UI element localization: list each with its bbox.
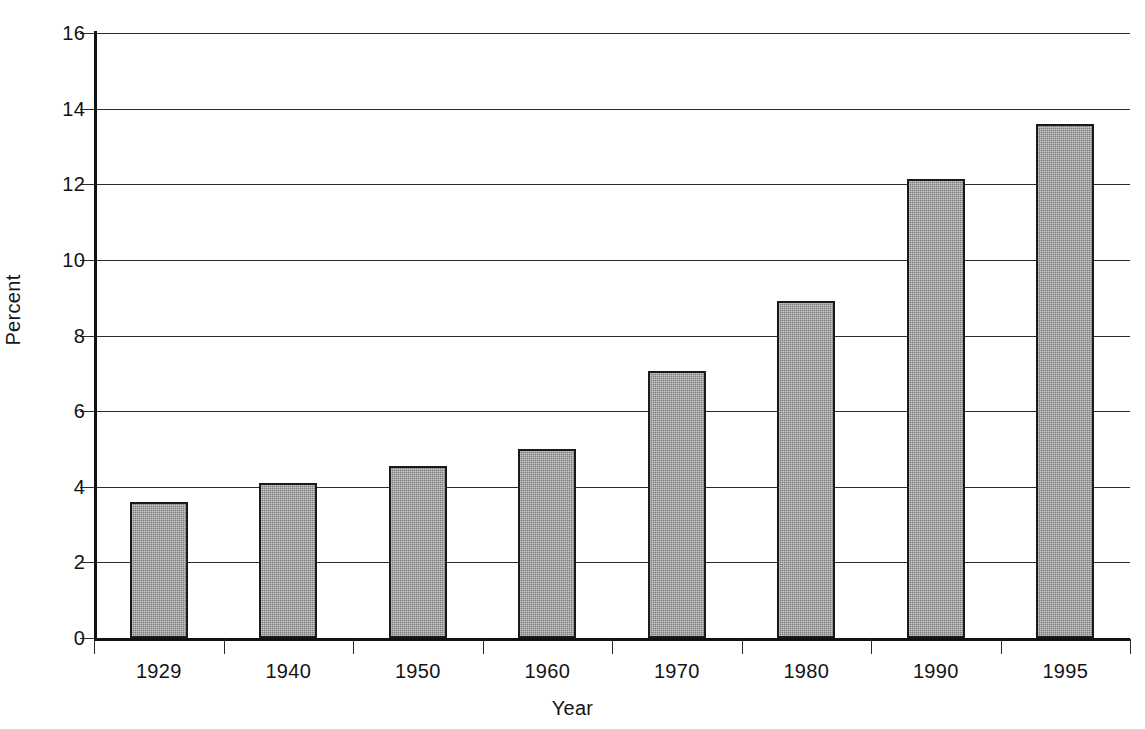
bar [907,179,965,638]
bar [130,502,188,638]
y-tick-label: 2 [74,551,85,574]
bar [389,466,447,638]
bar [648,371,706,638]
y-tick-label: 10 [62,248,85,271]
bar [1036,124,1094,638]
x-tick-label: 1980 [783,660,829,683]
y-tick-label: 14 [62,97,85,120]
bar [777,301,835,638]
y-tick-label: 4 [74,475,85,498]
gridline [94,184,1130,185]
x-tick-mark [1001,639,1002,654]
gridline [94,33,1130,34]
gridline [94,336,1130,337]
x-tick-mark [224,639,225,654]
gridline [94,562,1130,563]
plot-area [94,33,1130,638]
x-tick-mark [483,639,484,654]
x-tick-label: 1940 [265,660,311,683]
y-axis-spine [94,31,97,640]
x-tick-mark [1130,639,1131,654]
y-axis-title: Percent [2,274,25,345]
x-tick-label: 1960 [524,660,570,683]
x-tick-mark [94,639,95,654]
gridline [94,109,1130,110]
y-tick-label: 12 [62,173,85,196]
gridline [94,411,1130,412]
bar [518,449,576,638]
gridline [94,260,1130,261]
x-tick-mark [353,639,354,654]
y-tick-label: 8 [74,324,85,347]
x-tick-label: 1970 [654,660,700,683]
y-tick-label: 0 [74,627,85,650]
x-axis-ticks [94,639,1130,655]
y-tick-label: 6 [74,400,85,423]
x-tick-label: 1950 [395,660,441,683]
x-tick-mark [871,639,872,654]
bar-chart-figure: 0246810121416 19291940195019601970198019… [0,0,1145,729]
x-tick-mark [742,639,743,654]
x-axis-title: Year [0,697,1145,720]
y-tick-label: 16 [62,22,85,45]
x-tick-label: 1995 [1042,660,1088,683]
gridline [94,487,1130,488]
x-tick-label: 1929 [136,660,182,683]
bar [259,483,317,638]
x-tick-label: 1990 [913,660,959,683]
x-tick-mark [612,639,613,654]
